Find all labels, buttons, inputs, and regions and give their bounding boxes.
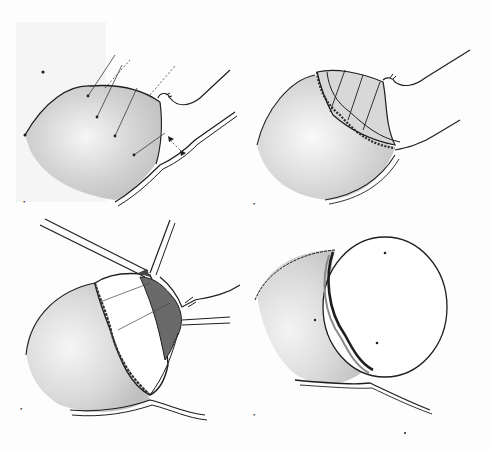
panel-b-drawing — [245, 0, 490, 225]
panel-b: • — [245, 0, 490, 225]
panel-a-drawing — [0, 0, 245, 225]
separated-structure — [323, 237, 447, 377]
surgical-figure: • — [0, 0, 490, 450]
panel-d: • — [245, 215, 490, 440]
panel-d-drawing — [245, 215, 490, 440]
panel-c-label: • — [20, 405, 22, 413]
panel-c: • — [0, 215, 245, 440]
panel-a: • — [0, 0, 245, 225]
panel-c-drawing — [0, 215, 245, 440]
panel-b-label: • — [253, 200, 255, 208]
panel-d-label: • — [253, 411, 255, 419]
panel-a-label: • — [23, 198, 25, 206]
